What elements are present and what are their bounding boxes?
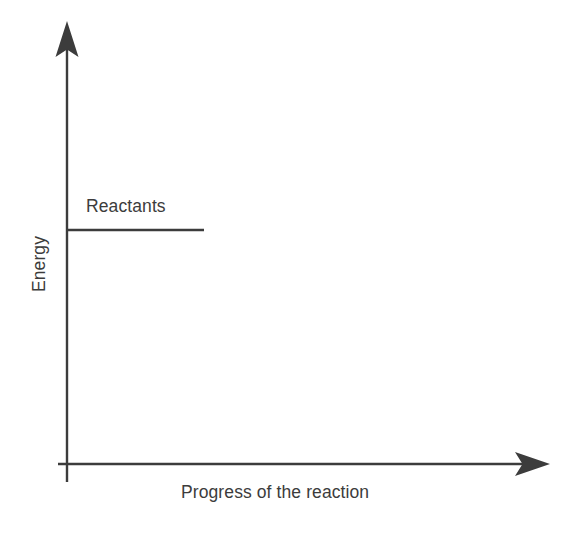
y-axis-label: Energy bbox=[31, 236, 49, 292]
x-axis-label: Progress of the reaction bbox=[181, 484, 369, 502]
reaction-energy-profile-diagram: Reactants Energy Progress of the reactio… bbox=[0, 0, 579, 536]
axes-and-levels-svg bbox=[0, 0, 579, 536]
reactants-level-label: Reactants bbox=[86, 198, 166, 216]
